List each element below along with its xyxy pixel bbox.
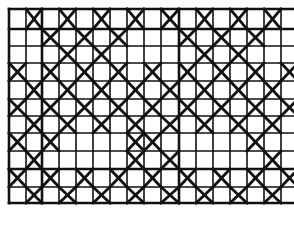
cross-marks (9, 9, 294, 203)
cross-lattice-pattern (0, 0, 294, 229)
